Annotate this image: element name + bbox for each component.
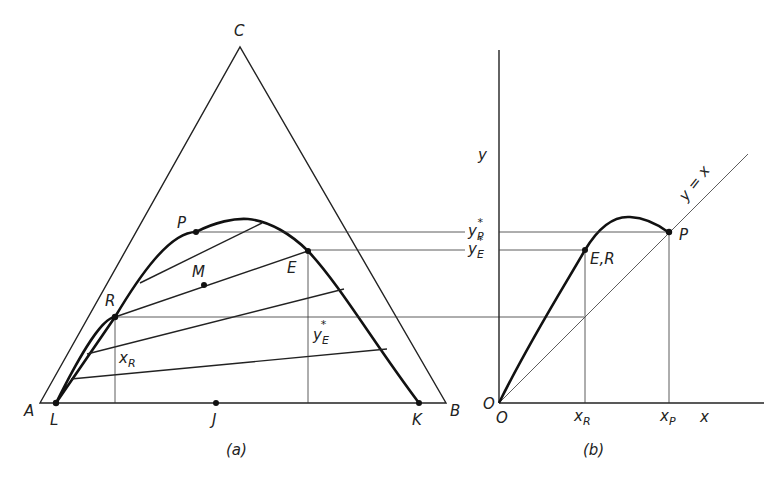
- distribution-diagram: y x O O y = x P E,R xR xP yP* yE* (b): [467, 50, 764, 459]
- tie-line-RE: [115, 251, 308, 317]
- point-E: [305, 248, 311, 254]
- point-ER: [582, 247, 588, 253]
- point-R: [112, 314, 118, 320]
- label-M: M: [192, 263, 205, 281]
- ternary-diagram: C A B P M E R L J K xR yE* (a): [23, 22, 584, 459]
- label-origin-y: O: [483, 395, 495, 413]
- label-xR: xR: [118, 349, 136, 370]
- label-xP-tick: xP: [659, 407, 676, 428]
- point-J: [213, 400, 219, 406]
- point-L: [53, 400, 59, 406]
- label-P-b: P: [679, 226, 689, 244]
- caption-a: (a): [226, 441, 247, 459]
- point-P-b: [666, 229, 672, 235]
- label-diagonal: y = x: [674, 162, 713, 205]
- distribution-curve: [499, 217, 668, 403]
- label-origin-x: O: [496, 409, 508, 427]
- label-ER: E,R: [590, 250, 615, 268]
- ternary-and-distribution-diagram: C A B P M E R L J K xR yE* (a) y x O O y…: [0, 0, 784, 486]
- label-L: L: [50, 411, 58, 429]
- diagonal-y-equals-x: [499, 154, 748, 403]
- label-x-axis: x: [699, 408, 709, 426]
- point-M: [201, 282, 207, 288]
- label-C: C: [234, 22, 245, 40]
- point-K: [416, 400, 422, 406]
- label-P: P: [177, 214, 187, 232]
- label-E: E: [287, 259, 297, 277]
- label-R: R: [105, 292, 115, 310]
- label-y-axis: y: [477, 146, 488, 164]
- label-B: B: [450, 402, 460, 420]
- label-A: A: [23, 402, 34, 420]
- label-K: K: [412, 411, 423, 429]
- caption-b: (b): [583, 441, 604, 459]
- label-J: J: [209, 411, 216, 429]
- point-P: [193, 229, 199, 235]
- label-xR-tick: xR: [573, 407, 591, 428]
- label-yE-star: yE*: [312, 318, 329, 347]
